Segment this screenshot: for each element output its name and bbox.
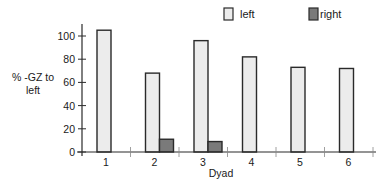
x-tick-label: 5	[297, 156, 303, 168]
y-tick-label: 0	[69, 146, 75, 158]
y-tick-label: 20	[63, 123, 75, 135]
bar-left-dyad-1	[97, 30, 111, 152]
y-tick-label: 100	[57, 30, 75, 42]
bar-right-dyad-3	[208, 142, 222, 152]
bar-left-dyad-2	[146, 73, 160, 152]
x-tick-label: 4	[249, 156, 255, 168]
legend-swatch-left	[224, 8, 233, 20]
y-axis-title: % -GZ to left	[12, 71, 54, 96]
legend: left right	[224, 8, 341, 20]
y-tick-label: 60	[63, 76, 75, 88]
bar-left-dyad-5	[291, 67, 305, 152]
y-axis-title-line-2: left	[26, 84, 40, 96]
legend-entry-left: left	[224, 8, 255, 20]
legend-swatch-right	[309, 8, 318, 20]
y-tick-label: 80	[63, 53, 75, 65]
x-axis-title: Dyad	[209, 167, 234, 179]
bar-left-dyad-4	[243, 57, 257, 152]
bars	[97, 30, 354, 152]
x-tick-label: 1	[103, 156, 109, 168]
bar-left-dyad-3	[194, 41, 208, 152]
y-axis-title-line-1: % -GZ to	[12, 71, 54, 83]
x-tick-label: 6	[346, 156, 352, 168]
x-tick-label: 3	[200, 156, 206, 168]
y-tick-label: 40	[63, 100, 75, 112]
legend-entry-right: right	[309, 8, 341, 20]
x-tick-label: 2	[152, 156, 158, 168]
legend-label-left: left	[240, 8, 255, 20]
bar-left-dyad-6	[340, 68, 354, 152]
legend-label-right: right	[320, 8, 341, 20]
chart: 020406080100123456 % -GZ to left Dyad le…	[0, 0, 378, 188]
bar-right-dyad-2	[160, 139, 174, 152]
